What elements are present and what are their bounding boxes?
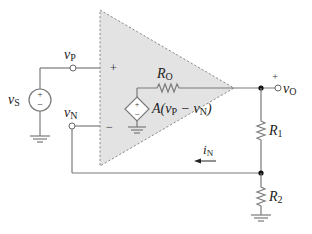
voltage-source-vs: + − xyxy=(29,68,51,136)
label-vp: vP xyxy=(64,47,76,63)
vo-plus-sign: + xyxy=(272,71,278,82)
terminal-vn xyxy=(69,123,75,129)
ground-icon xyxy=(30,136,50,142)
ground-icon xyxy=(251,215,271,221)
resistor-r2 xyxy=(257,173,265,215)
label-vs: vS xyxy=(8,92,20,108)
circuit-diagram: + − vS vP + vN − + − A(vP − vN) RO + vO xyxy=(0,0,312,234)
source-plus-sign: + xyxy=(37,89,42,99)
resistor-r1 xyxy=(257,88,265,173)
svg-text:−: − xyxy=(134,109,139,119)
label-vo: vO xyxy=(283,81,296,97)
label-r2: R2 xyxy=(268,189,283,205)
terminal-vo xyxy=(275,85,281,91)
label-in: iN xyxy=(203,142,214,158)
svg-text:+: + xyxy=(135,100,140,109)
opamp-plus-sign: + xyxy=(110,61,117,75)
terminal-vp xyxy=(70,65,76,71)
source-minus-sign: − xyxy=(37,99,43,110)
current-arrow-icon xyxy=(194,159,216,164)
label-r1: R1 xyxy=(268,123,283,139)
opamp-minus-sign: − xyxy=(106,120,113,134)
label-vn: vN xyxy=(64,105,77,121)
